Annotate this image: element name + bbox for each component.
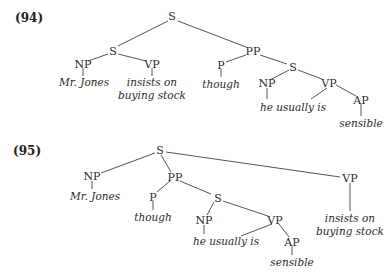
word-sensible: sensible — [339, 117, 382, 129]
node-vp: VP — [266, 214, 283, 227]
node-p: P — [217, 59, 225, 72]
edge — [260, 55, 287, 64]
edge — [178, 21, 246, 47]
node-vp: VP — [320, 77, 337, 90]
node-vp: VP — [341, 172, 358, 185]
word-though: though — [134, 211, 172, 223]
word-though: though — [202, 78, 240, 90]
node-vp: VP — [143, 58, 160, 71]
node-np: NP — [258, 77, 276, 90]
node-pp: PP — [246, 45, 261, 58]
word-insists-on: insists on — [127, 76, 178, 88]
node-ap: AP — [352, 94, 369, 107]
tree-95: (95) S NP Mr. Jones PP P though S NP he … — [13, 144, 384, 268]
edge — [298, 70, 322, 79]
node-pp: PP — [168, 171, 183, 184]
node-s-left: S — [109, 45, 117, 58]
node-ap: AP — [283, 236, 300, 249]
edge — [180, 181, 211, 194]
edge — [161, 155, 171, 172]
node-s-root: S — [156, 144, 164, 157]
node-p: P — [149, 191, 157, 204]
word-sensible: sensible — [270, 256, 313, 268]
example-number: (94) — [15, 11, 43, 25]
node-np: NP — [83, 170, 101, 183]
node-s-inner: S — [289, 61, 297, 74]
word-mr-jones: Mr. Jones — [58, 76, 110, 88]
word-he-usually-is: he usually is — [260, 101, 327, 113]
node-s-inner: S — [214, 192, 222, 205]
edge — [101, 153, 155, 173]
node-s-root: S — [168, 10, 176, 23]
example-number: (95) — [13, 144, 41, 158]
edge — [118, 21, 168, 46]
word-insists-on: insists on — [325, 212, 376, 224]
word-buying-stock: buying stock — [316, 225, 384, 237]
node-np: NP — [74, 58, 92, 71]
edge — [226, 55, 246, 62]
edge — [166, 152, 340, 177]
node-np: NP — [195, 214, 213, 227]
edge — [118, 54, 146, 61]
syntax-trees: (94) S S NP Mr. Jones VP insists on buyi… — [0, 0, 390, 276]
word-he-usually-is: he usually is — [193, 235, 260, 247]
edge — [223, 201, 268, 216]
tree-94: (94) S S NP Mr. Jones VP insists on buyi… — [15, 10, 383, 129]
word-mr-jones: Mr. Jones — [69, 190, 121, 202]
word-buying-stock: buying stock — [118, 89, 186, 101]
